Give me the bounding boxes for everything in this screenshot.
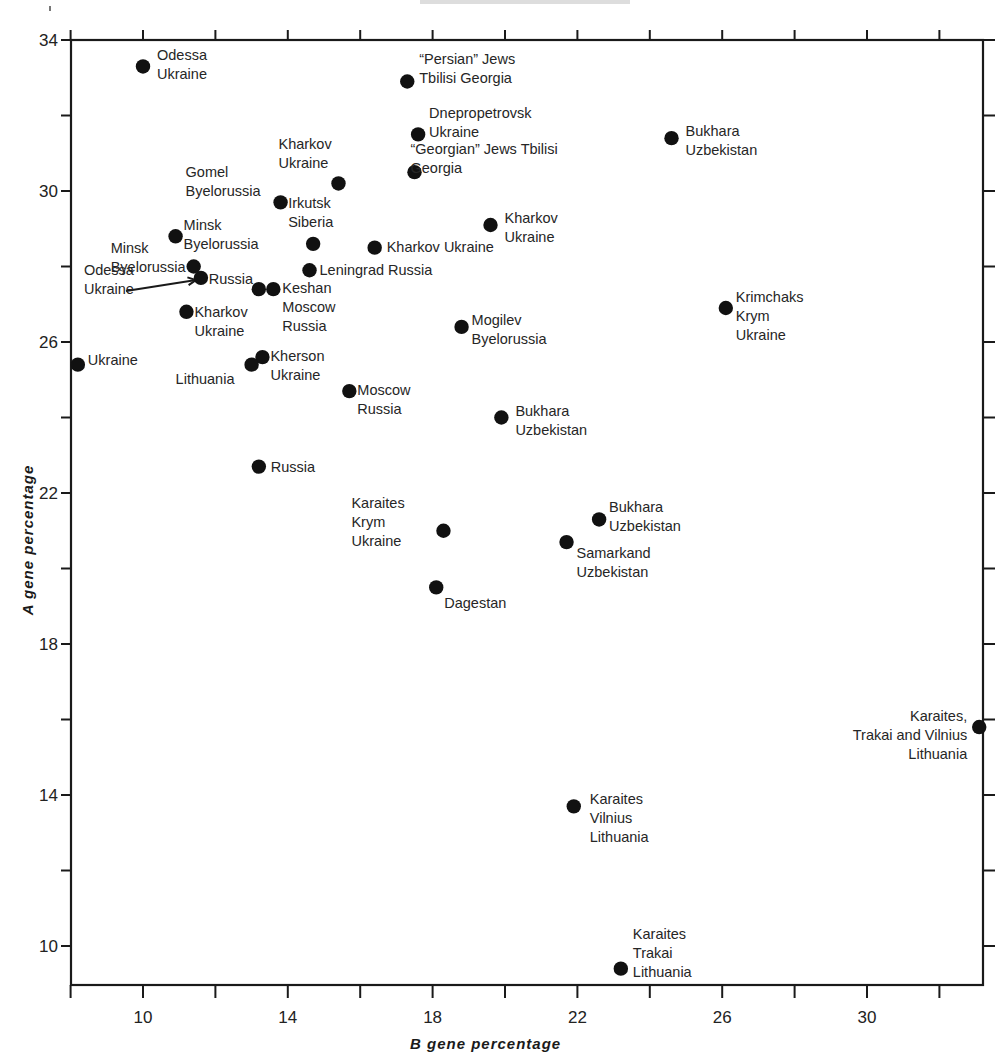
data-point: Ukraine [71, 352, 138, 372]
point-label: MogilevByelorussia [472, 312, 548, 347]
point-label-line: Karaites [351, 495, 404, 511]
point-label-line: Byelorussia [472, 331, 548, 347]
data-point: GomelByelorussia [186, 164, 288, 209]
point-label: Russia [271, 459, 316, 475]
point-label: MinskByelorussia [184, 217, 260, 252]
point-marker-icon [244, 357, 258, 371]
point-label-line: Dagestan [444, 595, 506, 611]
point-label-line: Karaites [633, 926, 686, 942]
point-label-line: Byelorussia [186, 183, 262, 199]
point-label: KaraitesTrakaiLithuania [633, 926, 693, 980]
point-label-line: Ukraine [736, 327, 786, 343]
point-marker-icon [194, 271, 208, 285]
point-marker-icon [252, 459, 266, 473]
data-point: BukharaUzbekistan [494, 403, 587, 438]
data-point: KhersonUkraine [255, 348, 324, 383]
point-label-line: Ukraine [505, 229, 555, 245]
point-label-line: Minsk [184, 217, 223, 233]
point-label: Leningrad Russia [320, 262, 434, 278]
point-marker-icon [302, 263, 316, 277]
data-point: Leningrad Russia [302, 262, 433, 278]
x-axis-title: B gene percentage [410, 1035, 561, 1052]
point-label-line: Trakai and Vilnius [853, 727, 967, 743]
point-label-line: Kharkov [505, 210, 559, 226]
point-label-line: Ukraine [270, 367, 320, 383]
point-label-line: Russia [282, 318, 327, 334]
data-point: Dagestan [429, 580, 506, 611]
y-tick-label: 30 [39, 182, 58, 201]
point-marker-icon [342, 384, 356, 398]
point-label-line: Ukraine [351, 533, 401, 549]
point-marker-icon [494, 410, 508, 424]
point-marker-icon [454, 320, 468, 334]
point-marker-icon [168, 229, 182, 243]
point-label-line: “Georgian” Jews Tbilisi [411, 141, 558, 157]
point-label-line: Lithuania [633, 964, 693, 980]
scatter-chart: 10141822263010141822263034 OdessaUkraine… [0, 0, 1003, 1060]
point-label-line: Kherson [270, 348, 324, 364]
chart-canvas: 10141822263010141822263034 OdessaUkraine… [0, 0, 1003, 1060]
point-label-line: Kharkov Ukraine [387, 239, 494, 255]
point-label-line: Vilnius [590, 810, 632, 826]
data-points: OdessaUkraine“Persian” JewsTbilisi Georg… [71, 47, 987, 979]
x-tick-label: 10 [134, 1008, 153, 1027]
point-label-line: Mogilev [472, 312, 523, 328]
data-point: OdessaUkraine [136, 47, 208, 82]
point-marker-icon [411, 127, 425, 141]
data-point: Russia [209, 271, 266, 296]
point-label: KaraitesKrymUkraine [351, 495, 404, 549]
data-point: KrimchaksKrymUkraine [719, 289, 804, 343]
data-point: Kharkov Ukraine [367, 239, 493, 255]
point-marker-icon [592, 512, 606, 526]
point-label-line: Russia [357, 401, 402, 417]
data-point: KaraitesKrymUkraine [351, 495, 450, 549]
point-label-line: Minsk [111, 240, 150, 256]
point-marker-icon [273, 195, 287, 209]
point-marker-icon [252, 282, 266, 296]
point-marker-icon [429, 580, 443, 594]
point-marker-icon [400, 74, 414, 88]
point-label: Dagestan [444, 595, 506, 611]
point-marker-icon [664, 131, 678, 145]
point-label: KharkovUkraine [278, 136, 332, 171]
point-label-line: Bukhara [609, 499, 664, 515]
point-marker-icon [71, 357, 85, 371]
point-label-line: Krimchaks [736, 289, 804, 305]
data-point: MinskByelorussia [168, 217, 259, 252]
point-label: MoscowRussia [357, 382, 411, 417]
point-label: BukharaUzbekistan [686, 123, 758, 158]
point-label-line: Krym [736, 308, 770, 324]
point-label: KharkovUkraine [505, 210, 559, 245]
point-label: KharkovUkraine [194, 304, 248, 339]
point-label-line: Ukraine [84, 281, 134, 297]
point-label-line: Moscow [357, 382, 411, 398]
point-label-line: Lithuania [908, 746, 968, 762]
point-label-line: Ukraine [278, 155, 328, 171]
plot-border [71, 40, 983, 985]
point-label-line: Russia [271, 459, 316, 475]
data-point: “Georgian” Jews TbilisiGeorgia [407, 141, 557, 179]
point-label-line: Ukraine [429, 124, 479, 140]
point-marker-icon [136, 59, 150, 73]
point-marker-icon [719, 301, 733, 315]
point-label: BukharaUzbekistan [609, 499, 681, 534]
data-point: KharkovUkraine [483, 210, 558, 245]
point-marker-icon [179, 305, 193, 319]
point-label-line: Irkutsk [288, 195, 331, 211]
y-tick-label: 18 [39, 635, 58, 654]
point-label: “Persian” JewsTbilisi Georgia [419, 51, 515, 86]
x-tick-label: 14 [278, 1008, 297, 1027]
y-tick-label: 10 [39, 937, 58, 956]
point-label-line: Bukhara [515, 403, 570, 419]
point-label-line: Keshan [282, 280, 331, 296]
point-label: “Georgian” Jews TbilisiGeorgia [411, 141, 558, 176]
point-label-line: Siberia [288, 214, 334, 230]
x-tick-label: 26 [713, 1008, 732, 1027]
point-marker-icon [559, 535, 573, 549]
data-point: MogilevByelorussia [454, 312, 547, 347]
data-point: Lithuania [176, 357, 259, 386]
data-point: BukharaUzbekistan [592, 499, 681, 534]
data-point: KharkovUkraine [179, 304, 248, 339]
point-label: OdessaUkraine [157, 47, 208, 82]
y-tick-label: 26 [39, 333, 58, 352]
